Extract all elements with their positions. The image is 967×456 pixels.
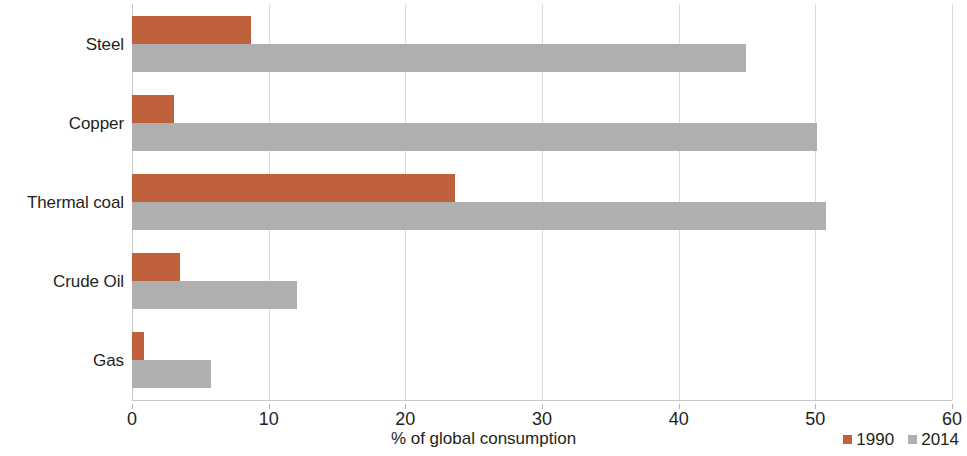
bar-crude-oil-1990 — [132, 253, 180, 281]
x-tick-label-0: 0 — [127, 410, 137, 428]
legend-item-2014[interactable]: 2014 — [908, 431, 959, 448]
y-axis-label-copper: Copper — [0, 115, 124, 132]
chart-legend: 19902014 — [843, 431, 959, 448]
y-axis-label-steel: Steel — [0, 36, 124, 53]
bar-gas-1990 — [132, 332, 144, 360]
legend-label-2014: 2014 — [921, 431, 959, 448]
x-tick-label-10: 10 — [259, 410, 279, 428]
bar-crude-oil-2014 — [132, 281, 297, 309]
y-axis-label-crude-oil: Crude Oil — [0, 273, 124, 290]
x-tick-label-20: 20 — [395, 410, 415, 428]
bar-steel-1990 — [132, 16, 251, 44]
bar-copper-2014 — [132, 123, 817, 151]
x-axis-title: % of global consumption — [0, 430, 967, 447]
x-tick-label-50: 50 — [805, 410, 825, 428]
x-axis-line — [132, 400, 952, 401]
legend-swatch-icon-2014 — [908, 435, 917, 444]
y-axis-label-gas: Gas — [0, 352, 124, 369]
y-axis-category-labels: SteelCopperThermal coalCrude OilGas — [0, 4, 124, 400]
bar-steel-2014 — [132, 44, 746, 72]
y-axis-label-thermal-coal: Thermal coal — [0, 194, 124, 211]
legend-swatch-icon-1990 — [843, 435, 852, 444]
bar-copper-1990 — [132, 95, 174, 123]
legend-item-1990[interactable]: 1990 — [843, 431, 894, 448]
x-tick-label-40: 40 — [669, 410, 689, 428]
x-tick-label-30: 30 — [532, 410, 552, 428]
bar-thermal-coal-1990 — [132, 174, 455, 202]
bar-gas-2014 — [132, 360, 211, 388]
bar-chart: SteelCopperThermal coalCrude OilGas 0102… — [0, 0, 967, 456]
plot-area — [132, 4, 952, 400]
x-tick-label-60: 60 — [942, 410, 962, 428]
bar-thermal-coal-2014 — [132, 202, 826, 230]
gridline-x-60 — [952, 4, 953, 400]
legend-label-1990: 1990 — [856, 431, 894, 448]
